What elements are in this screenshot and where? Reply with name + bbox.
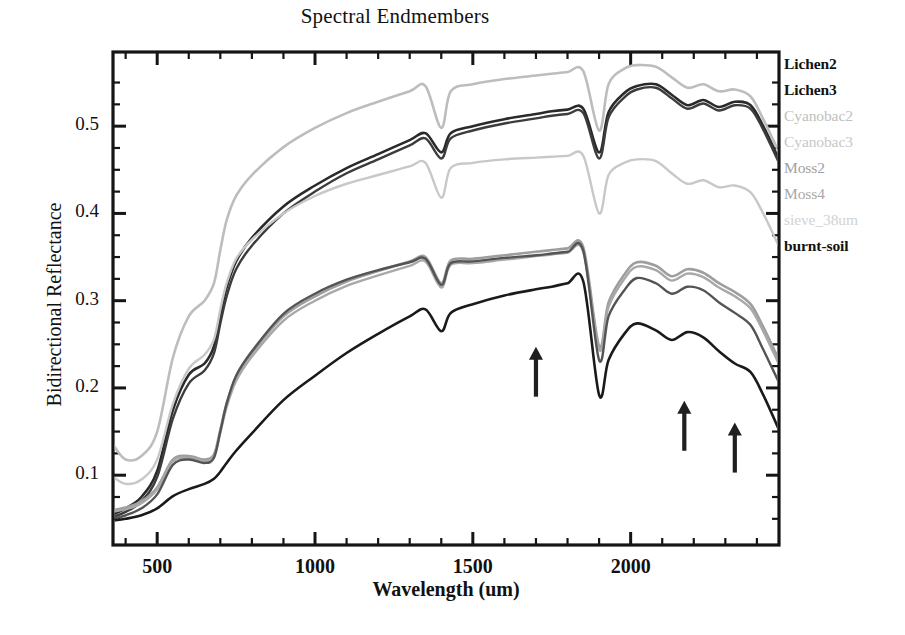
x-tick-label: 1500 — [433, 555, 513, 578]
series-line-burnt-soil — [113, 273, 779, 520]
y-tick-label: 0.3 — [41, 288, 99, 310]
series-lines — [113, 65, 779, 521]
x-tick-label: 1000 — [275, 555, 355, 578]
legend-item-cyanobac2[interactable]: Cyanobac2 — [784, 108, 905, 134]
tick-marks — [113, 52, 779, 545]
legend-item-cyanobac3[interactable]: Cyanobac3 — [784, 134, 905, 160]
series-line-cyanobac2 — [113, 65, 779, 461]
series-line-lichen3 — [113, 87, 779, 517]
legend-item-sieve-38um[interactable]: sieve_38um — [784, 212, 905, 238]
x-tick-label: 2000 — [591, 555, 671, 578]
y-tick-label: 0.2 — [41, 375, 99, 397]
legend-item-moss2[interactable]: Moss2 — [784, 160, 905, 186]
annotation-arrow-3 — [728, 423, 742, 473]
y-tick-label: 0.1 — [41, 462, 99, 484]
annotation-arrow-2 — [677, 401, 691, 451]
legend: Lichen2Lichen3Cyanobac2Cyanobac3Moss2Mos… — [784, 56, 905, 264]
legend-item-burnt-soil[interactable]: burnt-soil — [784, 238, 905, 264]
axes-frame — [113, 52, 779, 545]
spectral-endmembers-figure: Spectral Endmembers Bidirectional Reflec… — [0, 0, 905, 635]
legend-item-lichen3[interactable]: Lichen3 — [784, 82, 905, 108]
x-tick-label: 500 — [117, 555, 197, 578]
y-tick-label: 0.4 — [41, 200, 99, 222]
annotation-arrows — [529, 347, 742, 473]
annotation-arrow-1 — [529, 347, 543, 397]
legend-item-moss4[interactable]: Moss4 — [784, 186, 905, 212]
series-line-cyanobac3 — [113, 152, 779, 484]
y-tick-label: 0.5 — [41, 113, 99, 135]
plot-canvas — [0, 0, 905, 635]
legend-item-lichen2[interactable]: Lichen2 — [784, 56, 905, 82]
